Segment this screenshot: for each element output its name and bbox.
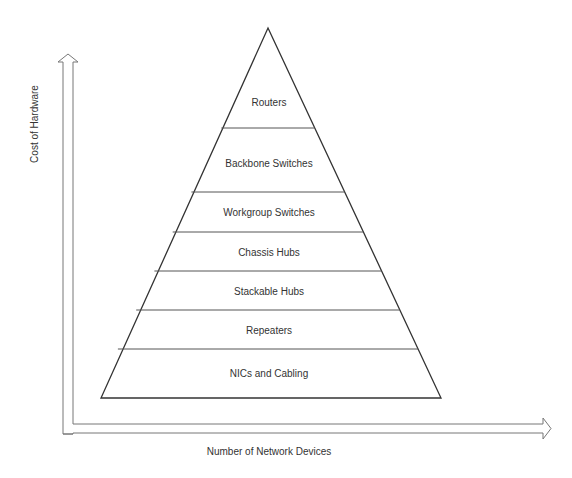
y-axis-arrow-icon: [58, 54, 551, 439]
tier-label-repeaters: Repeaters: [246, 325, 292, 336]
tier-label-routers: Routers: [251, 97, 286, 108]
y-axis-label: Cost of Hardware: [29, 85, 40, 163]
tier-label-chassis-hubs: Chassis Hubs: [238, 247, 300, 258]
pyramid-diagram: Routers Backbone Switches Workgroup Swit…: [0, 0, 572, 478]
tier-label-workgroup-switches: Workgroup Switches: [223, 207, 315, 218]
tier-label-nics-and-cabling: NICs and Cabling: [230, 368, 308, 379]
x-axis-label: Number of Network Devices: [207, 446, 331, 457]
tier-label-stackable-hubs: Stackable Hubs: [234, 286, 304, 297]
tier-label-backbone-switches: Backbone Switches: [225, 158, 312, 169]
